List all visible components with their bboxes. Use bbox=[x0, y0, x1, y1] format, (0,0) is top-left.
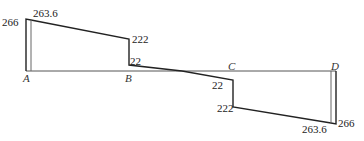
value-d-inner: 263.6 bbox=[302, 123, 327, 135]
point-d-label: D bbox=[330, 60, 339, 72]
shear-curve-left bbox=[26, 19, 182, 71]
value-c-right: 222 bbox=[217, 102, 234, 114]
shear-diagram: 266 263.6 222 22 22 222 263.6 266 A B C … bbox=[0, 0, 364, 141]
value-a-outer: 266 bbox=[2, 16, 19, 28]
value-b-left: 222 bbox=[132, 33, 149, 45]
point-c-label: C bbox=[228, 60, 236, 72]
value-b-right: 22 bbox=[130, 55, 141, 67]
point-b-label: B bbox=[125, 72, 132, 84]
value-a-inner: 263.6 bbox=[33, 7, 58, 19]
value-d-outer: 266 bbox=[338, 117, 355, 129]
point-a-label: A bbox=[22, 72, 30, 84]
value-c-left: 22 bbox=[212, 79, 223, 91]
shear-curve-right bbox=[182, 71, 336, 124]
